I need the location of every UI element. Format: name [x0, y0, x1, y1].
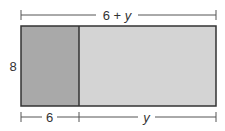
- right-rectangle: [79, 26, 216, 106]
- top-length-label: 6 + y: [103, 8, 133, 23]
- height-label: 8: [9, 59, 16, 74]
- left-rectangle: [21, 26, 79, 106]
- bottom-right-length-label: y: [142, 110, 151, 125]
- area-model-diagram: 6 + y 8 6 y: [0, 0, 225, 131]
- bottom-left-length-label: 6: [46, 110, 53, 125]
- top-dimension-line: 6 + y: [21, 8, 216, 23]
- bottom-dimension-line: 6 y: [21, 110, 216, 125]
